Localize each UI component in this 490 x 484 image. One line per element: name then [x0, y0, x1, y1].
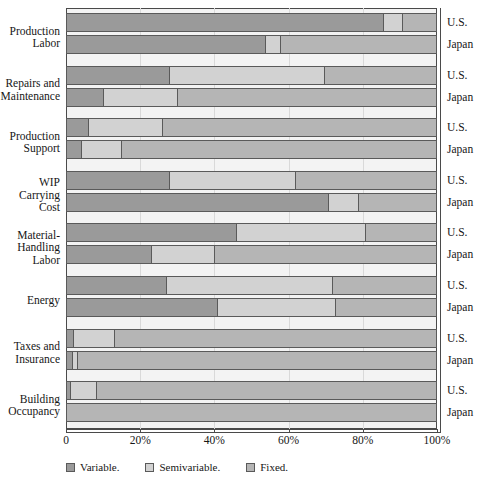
- bar-segment-semivariable: [74, 330, 115, 347]
- bar-row: [66, 223, 437, 242]
- bar-segment-variable: [67, 277, 167, 294]
- bar-segment-fixed: [78, 352, 436, 369]
- category-label-line: Repairs and: [0, 77, 60, 90]
- category-label-line: Taxes and: [0, 340, 60, 353]
- bar-segment-semivariable: [152, 246, 215, 263]
- category-label-line: Occupancy: [0, 405, 60, 418]
- bar-segment-semivariable: [89, 119, 163, 136]
- category-label-line: Production: [0, 130, 60, 143]
- bar-row: [66, 403, 437, 422]
- country-label-japan: Japan: [447, 354, 473, 367]
- bar-segment-fixed: [281, 36, 436, 53]
- category-label-line: Carrying: [0, 189, 60, 202]
- bar-segment-fixed: [115, 330, 436, 347]
- legend-label: Variable.: [80, 461, 119, 473]
- country-label-japan: Japan: [447, 196, 473, 209]
- bar-segment-fixed: [366, 224, 436, 241]
- bar-segment-semivariable: [167, 277, 333, 294]
- bar-row: [66, 171, 437, 190]
- bar-segment-fixed: [336, 299, 436, 316]
- category-label: BuildingOccupancy: [0, 393, 60, 418]
- category-label: WIPCarryingCost: [0, 176, 60, 214]
- bar-segment-fixed: [403, 14, 436, 31]
- category-label-line: Material-: [0, 229, 60, 242]
- bar-segment-semivariable: [170, 67, 325, 84]
- legend-item-semivariable[interactable]: Semivariable.: [145, 461, 220, 473]
- bar-segment-semivariable: [82, 141, 123, 158]
- x-tick-100: [437, 429, 438, 433]
- x-tick-label-80: 80%: [352, 434, 373, 447]
- country-label-japan: Japan: [447, 406, 473, 419]
- category-label-line: Maintenance: [0, 90, 60, 103]
- bar-segment-fixed: [67, 404, 436, 421]
- category-label-line: Energy: [0, 294, 60, 307]
- bar-row: [66, 276, 437, 295]
- country-label-us: U.S.: [447, 174, 467, 187]
- bar-segment-fixed: [163, 119, 436, 136]
- bar-row: [66, 88, 437, 107]
- country-label-japan: Japan: [447, 91, 473, 104]
- legend-swatch-variable-icon: [66, 463, 75, 472]
- legend-item-fixed[interactable]: Fixed.: [246, 461, 288, 473]
- bar-segment-variable: [67, 330, 74, 347]
- category-label: ProductionSupport: [0, 130, 60, 155]
- legend-item-variable[interactable]: Variable.: [66, 461, 119, 473]
- category-label-line: Cost: [0, 201, 60, 214]
- bar-row: [66, 13, 437, 32]
- bar-segment-semivariable: [384, 14, 402, 31]
- category-label-line: Support: [0, 142, 60, 155]
- country-label-japan: Japan: [447, 38, 473, 51]
- bar-row: [66, 381, 437, 400]
- bar-segment-fixed: [296, 172, 436, 189]
- bar-segment-variable: [67, 194, 329, 211]
- legend-swatch-semivariable-icon: [145, 463, 154, 472]
- country-label-us: U.S.: [447, 121, 467, 134]
- category-label: Material-HandlingLabor: [0, 229, 60, 267]
- category-label: Taxes andInsurance: [0, 340, 60, 365]
- stacked-bar-chart: ProductionLaborRepairs andMaintenancePro…: [0, 0, 490, 484]
- bar-segment-variable: [67, 141, 82, 158]
- bar-segment-variable: [67, 299, 218, 316]
- bar-segment-fixed: [359, 194, 436, 211]
- bar-row: [66, 118, 437, 137]
- x-tick-label-40: 40%: [204, 434, 225, 447]
- x-tick-label-20: 20%: [130, 434, 151, 447]
- bar-segment-variable: [67, 89, 104, 106]
- category-label: ProductionLabor: [0, 25, 60, 50]
- bar-segment-variable: [67, 36, 266, 53]
- country-label-us: U.S.: [447, 69, 467, 82]
- bar-row: [66, 193, 437, 212]
- country-label-japan: Japan: [447, 143, 473, 156]
- country-label-us: U.S.: [447, 279, 467, 292]
- legend-label: Semivariable.: [159, 461, 220, 473]
- bar-segment-semivariable: [170, 172, 295, 189]
- category-label-line: Building: [0, 393, 60, 406]
- bar-segment-fixed: [122, 141, 436, 158]
- chart-legend: Variable.Semivariable.Fixed.: [66, 461, 314, 473]
- bar-segment-fixed: [325, 67, 436, 84]
- x-tick-0: [66, 429, 67, 433]
- bar-segment-fixed: [97, 382, 436, 399]
- x-tick-60: [289, 429, 290, 433]
- country-label-us: U.S.: [447, 332, 467, 345]
- bar-segment-semivariable: [266, 36, 281, 53]
- bar-segment-fixed: [215, 246, 436, 263]
- category-label-line: WIP: [0, 176, 60, 189]
- bar-row: [66, 66, 437, 85]
- bar-segment-variable: [67, 246, 152, 263]
- bar-segment-variable: [67, 14, 384, 31]
- x-tick-label-100: 100%: [424, 434, 451, 447]
- bar-segment-variable: [67, 224, 237, 241]
- x-tick-80: [363, 429, 364, 433]
- bar-row: [66, 245, 437, 264]
- bar-row: [66, 298, 437, 317]
- bar-row: [66, 140, 437, 159]
- x-tick-40: [214, 429, 215, 433]
- country-label-japan: Japan: [447, 248, 473, 261]
- category-label: Repairs andMaintenance: [0, 77, 60, 102]
- bar-row: [66, 351, 437, 370]
- category-label: Energy: [0, 294, 60, 307]
- bar-segment-variable: [67, 67, 170, 84]
- legend-label: Fixed.: [260, 461, 288, 473]
- bar-segment-semivariable: [71, 382, 97, 399]
